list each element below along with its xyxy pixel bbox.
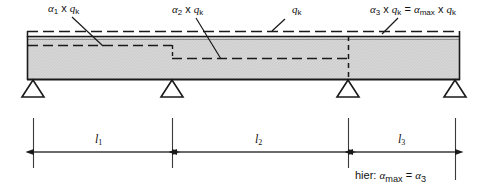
alpha3-subscript: 3	[376, 8, 380, 17]
alpha2-subscript: 2	[178, 8, 182, 17]
alpha3-symbol: α	[370, 3, 376, 15]
note-alphamax-subscript: max	[385, 174, 402, 184]
note-prefix: hier:	[355, 169, 376, 181]
l2-subscript: 2	[258, 138, 262, 147]
l3-subscript: 3	[401, 138, 405, 147]
label-alpha2-qk: α2 x qk	[172, 4, 203, 15]
support-c	[337, 80, 359, 97]
dim-label-l3: l3	[398, 133, 405, 145]
qk-q: q	[292, 3, 298, 15]
beam-body	[27, 31, 460, 80]
note-alpha3-subscript: 3	[421, 174, 426, 184]
alphamax-symbol: α	[414, 3, 420, 15]
alpha3-equals: =	[404, 3, 410, 15]
l1-subscript: 1	[98, 138, 102, 147]
note-equals: =	[406, 169, 412, 181]
support-d	[444, 80, 466, 97]
support-b	[161, 80, 183, 97]
alpha2-times: x	[185, 3, 191, 15]
alpha2-qsub: k	[199, 8, 203, 17]
label-qk: qk	[292, 4, 302, 15]
alpha3-times: x	[383, 3, 389, 15]
alpha3-qsub: k	[397, 8, 401, 17]
alphamax-qsub: k	[452, 8, 456, 17]
support-a	[22, 80, 44, 97]
diagram-canvas	[0, 0, 500, 189]
beam-load-diagram: α1 x qk α2 x qk qk α3 x qk = αmax x qk l…	[0, 0, 500, 189]
alpha1-times: x	[61, 2, 67, 14]
alpha1-qsub: k	[75, 7, 79, 16]
alphamax-subscript: max	[420, 8, 435, 17]
alphamax-times: x	[438, 3, 444, 15]
dim-label-l1: l1	[95, 133, 102, 145]
note-alpha-max: hier: αmax = α3	[355, 170, 426, 184]
label-alpha1-qk: α1 x qk	[48, 3, 79, 14]
alpha1-symbol: α	[48, 2, 54, 14]
alpha2-symbol: α	[172, 3, 178, 15]
qk-sub: k	[298, 8, 302, 17]
label-alpha3-qk: α3 x qk = αmax x qk	[370, 4, 456, 15]
dim-label-l2: l2	[255, 133, 262, 145]
alpha1-subscript: 1	[54, 7, 58, 16]
